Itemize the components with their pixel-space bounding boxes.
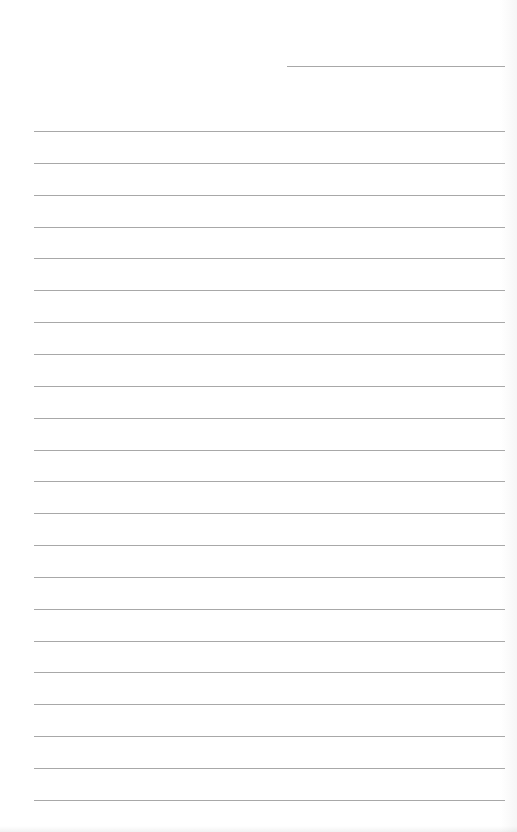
writing-line <box>34 641 505 642</box>
writing-line <box>34 195 505 196</box>
writing-line <box>34 450 505 451</box>
writing-line <box>34 227 505 228</box>
writing-line <box>34 258 505 259</box>
writing-line <box>34 545 505 546</box>
writing-line <box>34 131 505 132</box>
writing-line <box>34 672 505 673</box>
lined-paper-page <box>0 0 517 832</box>
writing-line <box>34 768 505 769</box>
writing-line <box>34 609 505 610</box>
writing-line <box>34 418 505 419</box>
writing-line <box>34 800 505 801</box>
writing-line <box>34 322 505 323</box>
writing-line <box>34 290 505 291</box>
writing-line <box>34 736 505 737</box>
writing-line <box>34 481 505 482</box>
writing-lines <box>0 0 517 832</box>
writing-line <box>34 704 505 705</box>
writing-line <box>34 354 505 355</box>
writing-line <box>34 577 505 578</box>
writing-line <box>34 163 505 164</box>
writing-line <box>34 513 505 514</box>
writing-line <box>34 386 505 387</box>
